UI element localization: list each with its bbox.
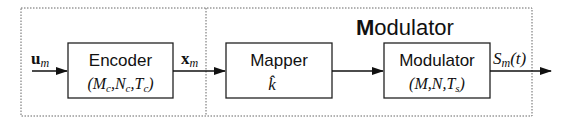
group-title: Modulator xyxy=(356,15,454,40)
block-diagram: Modulator um Encoder (Mc,Nc,Tc) xm Mappe… xyxy=(0,0,569,122)
modulator-label: Modulator xyxy=(399,51,475,70)
mapper-params: k̂ xyxy=(268,75,276,94)
encoder-block: Encoder (Mc,Nc,Tc) xyxy=(68,43,173,98)
modulator-block: Modulator (M,N,Ts) xyxy=(384,43,490,98)
mapper-block: Mapper k̂ xyxy=(226,43,332,98)
output-signal-label: Sm(t) xyxy=(493,49,527,70)
mapper-label: Mapper xyxy=(250,51,308,70)
encoder-label: Encoder xyxy=(89,51,153,70)
intermediate-signal-label: xm xyxy=(181,49,199,70)
input-signal-label: um xyxy=(31,49,49,70)
